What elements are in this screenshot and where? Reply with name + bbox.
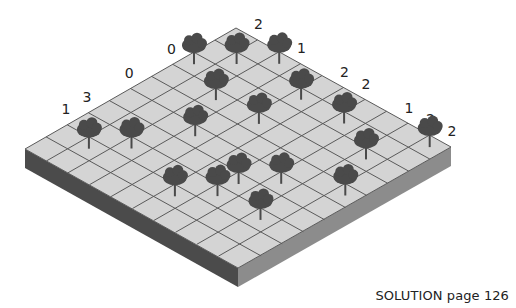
tree-canopy xyxy=(242,158,252,168)
tree-canopy xyxy=(135,123,145,133)
row-clue: 0 xyxy=(167,41,176,57)
column-clue: 2 xyxy=(447,123,456,139)
solution-page-caption: SOLUTION page 126 xyxy=(375,288,509,303)
tree-canopy xyxy=(219,74,229,84)
tree-canopy xyxy=(348,170,358,180)
tree-canopy xyxy=(240,38,250,48)
tree-canopy xyxy=(284,158,294,168)
column-clue: 2 xyxy=(361,76,370,92)
tree-canopy xyxy=(262,98,272,108)
tree-canopy xyxy=(347,98,357,108)
tree-canopy xyxy=(198,110,208,120)
row-clue: 3 xyxy=(83,89,92,105)
tree-canopy xyxy=(282,38,292,48)
column-clue: 1 xyxy=(297,40,306,56)
tree-canopy xyxy=(178,170,188,180)
tree-canopy xyxy=(92,123,102,133)
tree-canopy xyxy=(433,121,443,131)
tree-canopy xyxy=(221,170,231,180)
column-clue: 2 xyxy=(340,64,349,80)
tree-canopy xyxy=(304,74,314,84)
tree-canopy xyxy=(264,194,274,204)
row-clue: 1 xyxy=(61,101,70,117)
row-clue: 0 xyxy=(125,65,134,81)
isometric-puzzle-board: 0031 2122122 xyxy=(0,0,516,308)
column-clue: 1 xyxy=(404,100,413,116)
column-clue: 2 xyxy=(254,16,263,32)
tree-canopy xyxy=(369,133,379,143)
tree-canopy xyxy=(197,38,207,48)
